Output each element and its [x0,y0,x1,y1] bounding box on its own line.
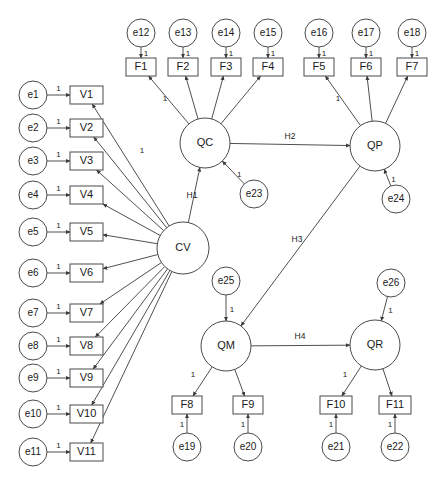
node-V4[interactable]: V4 [70,186,103,204]
node-V3[interactable]: V3 [70,152,103,170]
node-label-e8: e8 [27,340,39,351]
edge-CV-to-V8 [95,267,164,337]
node-e4[interactable]: e4 [19,181,47,209]
node-e19[interactable]: e19 [173,433,201,461]
path-label-H2: H2 [285,131,296,141]
edge-QC-to-F2 [186,76,198,119]
node-e22[interactable]: e22 [381,433,409,461]
edges-layer [47,47,412,452]
node-V6[interactable]: V6 [70,264,103,282]
node-label-V3: V3 [80,154,93,166]
node-F6[interactable]: F6 [351,58,381,76]
node-e5[interactable]: e5 [19,218,47,246]
node-F2[interactable]: F2 [168,58,198,76]
node-V7[interactable]: V7 [70,304,103,322]
loading-label-e24: 1 [391,175,396,184]
edge-QC-to-F4 [221,76,261,124]
loading-label-e18: 1 [415,49,420,58]
edge-e24-to-QP [384,169,391,186]
node-label-V5: V5 [80,225,93,237]
node-QP[interactable]: QP [350,121,400,171]
node-e3[interactable]: e3 [19,147,47,175]
node-V1[interactable]: V1 [70,86,103,104]
node-e25[interactable]: e25 [212,267,240,295]
node-label-e15: e15 [260,27,277,38]
node-label-F8: F8 [181,398,194,410]
node-e24[interactable]: e24 [382,185,410,213]
node-label-e24: e24 [388,193,405,204]
node-F9[interactable]: F9 [233,396,263,414]
node-F8[interactable]: F8 [172,396,202,414]
node-V2[interactable]: V2 [70,119,103,137]
node-label-e5: e5 [27,226,39,237]
fixed-loading-qp-f5-loading: 1 [336,94,341,103]
node-F5[interactable]: F5 [304,58,334,76]
edge-QP-to-F6 [367,76,372,121]
node-label-e11: e11 [25,446,41,457]
node-label-V10: V10 [77,407,97,419]
node-V9[interactable]: V9 [70,369,103,387]
node-label-e16: e16 [311,27,328,38]
path-label-H4: H4 [295,331,306,341]
edge-QC-to-F3 [212,76,224,119]
node-QM[interactable]: QM [201,321,251,371]
edge-e26-to-QR [381,297,387,321]
node-e2[interactable]: e2 [19,114,47,142]
node-F3[interactable]: F3 [211,58,241,76]
node-V5[interactable]: V5 [70,223,103,241]
node-e9[interactable]: e9 [19,364,47,392]
edge-CV-to-V5 [103,235,157,244]
node-e16[interactable]: e16 [305,19,333,47]
node-label-F7: F7 [406,60,419,72]
loading-label-e5: 1 [56,221,61,230]
node-e20[interactable]: e20 [234,433,262,461]
node-e18[interactable]: e18 [398,19,426,47]
node-label-e4: e4 [27,189,39,200]
node-e13[interactable]: e13 [169,19,197,47]
node-e7[interactable]: e7 [19,299,47,327]
node-V11[interactable]: V11 [70,443,103,461]
node-F10[interactable]: F10 [320,396,352,414]
loading-label-e20: 1 [241,420,246,429]
node-label-e9: e9 [27,372,39,383]
edge-QR-to-F11 [383,369,392,396]
nodes-layer: V1V2V3V4V5V6V7V8V9V10V11F1F2F3F4F5F6F7F8… [19,19,427,466]
node-V10[interactable]: V10 [70,405,103,423]
node-label-V1: V1 [80,88,93,100]
node-e8[interactable]: e8 [19,332,47,360]
node-F7[interactable]: F7 [397,58,427,76]
node-e12[interactable]: e12 [127,19,155,47]
edge-QP-to-F5 [325,76,360,126]
node-label-QR: QR [367,338,384,350]
node-F1[interactable]: F1 [126,58,156,76]
edge-QC-to-F1 [149,76,189,124]
node-e6[interactable]: e6 [19,259,47,287]
node-CV[interactable]: CV [157,222,209,274]
edge-CV-to-V1 [92,104,169,226]
edge-QM-to-F8 [193,367,212,396]
node-label-e21: e21 [328,441,345,452]
node-e1[interactable]: e1 [19,81,47,109]
node-label-e26: e26 [383,277,400,288]
node-label-e23: e23 [246,188,263,199]
node-label-F4: F4 [262,60,275,72]
node-label-F3: F3 [220,60,233,72]
node-e26[interactable]: e26 [377,269,405,297]
fixed-loading-qc-f1-loading: 1 [163,94,168,103]
node-e14[interactable]: e14 [212,19,240,47]
node-F4[interactable]: F4 [253,58,283,76]
loading-label-e14: 1 [229,49,234,58]
node-QR[interactable]: QR [350,320,400,370]
node-e15[interactable]: e15 [254,19,282,47]
node-label-F9: F9 [242,398,255,410]
node-e21[interactable]: e21 [322,433,350,461]
node-e11[interactable]: e11 [19,438,47,466]
node-e17[interactable]: e17 [352,19,380,47]
node-e23[interactable]: e23 [240,180,268,208]
node-F11[interactable]: F11 [379,396,411,414]
edge-QM-to-F9 [235,369,245,396]
node-e10[interactable]: e10 [19,400,47,428]
node-QC[interactable]: QC [180,118,230,168]
node-V8[interactable]: V8 [70,337,103,355]
fixed-loading-cv-v1-loading: 1 [140,146,145,155]
